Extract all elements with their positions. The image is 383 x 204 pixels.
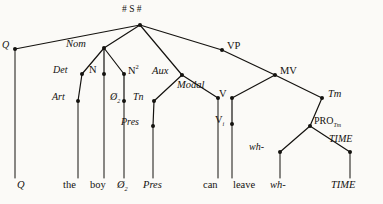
node-dot-wh: [278, 150, 282, 154]
node-dot-v: [230, 96, 234, 100]
terminal-t-leave: leave: [233, 180, 255, 191]
node-dot-q: [13, 47, 17, 51]
terminal-t-can: can: [203, 180, 218, 191]
node-label-nom: Nom: [66, 39, 86, 50]
node-label-vi: Vi: [215, 115, 224, 127]
node-label-pres: Pres: [121, 117, 139, 127]
node-label-art: Art: [52, 92, 65, 102]
node-dot-vp: [220, 48, 224, 52]
terminal-t-boy: boy: [90, 180, 106, 191]
node-label-v: V: [219, 89, 227, 100]
node-label-tn: Tn: [133, 92, 144, 102]
node-label-det: Det: [53, 65, 67, 75]
node-label-zero2: Ø2: [110, 92, 120, 104]
node-label-mv: MV: [280, 66, 297, 77]
terminal-t-the: the: [63, 180, 76, 191]
terminal-t-q: Q: [17, 180, 25, 191]
node-dot-aux: [180, 73, 184, 77]
edge-tn-to-pres: [153, 101, 154, 126]
node-label-root: # S #: [122, 5, 142, 15]
node-dot-zero2: [122, 99, 126, 103]
node-dot-root: [138, 23, 142, 27]
node-label-wh: wh-: [249, 142, 264, 152]
node-label-n: N: [89, 65, 97, 76]
terminal-t-time: TIME: [331, 180, 356, 191]
node-dot-nom: [102, 46, 106, 50]
terminal-t-zero2: Ø2: [117, 180, 128, 192]
node-label-aux: Aux: [152, 66, 168, 77]
node-dot-det: [80, 72, 84, 76]
edge-mv-to-tm: [275, 75, 322, 98]
node-label-tm: Tm: [328, 89, 341, 100]
node-dot-n: [102, 72, 106, 76]
node-label-time: TIME: [329, 134, 352, 144]
node-dot-tm: [320, 96, 324, 100]
edge-root-to-vp: [140, 25, 222, 50]
node-label-n2: N2: [128, 64, 139, 76]
edge-mv-to-v: [232, 75, 275, 98]
terminal-t-wh: wh-: [270, 180, 286, 191]
edge-pro-to-wh: [280, 126, 310, 152]
node-dot-n2: [122, 72, 126, 76]
node-dot-art: [76, 99, 80, 103]
node-label-modal: Modal: [177, 80, 204, 91]
node-dot-pro: [308, 124, 312, 128]
node-label-vp: VP: [227, 41, 240, 52]
edge-vp-to-mv: [222, 50, 275, 75]
node-label-pro: PROTm: [314, 116, 341, 128]
node-dot-time: [348, 150, 352, 154]
edge-nom-to-n2: [104, 48, 124, 74]
syntax-tree-diagram: # S #QNomDetNN2ArtØ2TnPresAuxModalVVPMVV…: [0, 0, 383, 204]
node-label-q: Q: [2, 40, 9, 50]
node-dot-pres: [151, 124, 155, 128]
node-dot-mv: [273, 73, 277, 77]
node-dot-tn: [152, 99, 156, 103]
terminal-t-pres: Pres: [143, 180, 162, 191]
edge-det-to-art: [78, 74, 82, 101]
tree-edges-layer: [0, 0, 383, 204]
node-dot-vi: [230, 122, 234, 126]
